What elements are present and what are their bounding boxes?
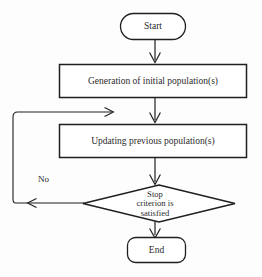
process2-node-shape[interactable] bbox=[60, 125, 247, 158]
flowchart-canvas: Start Generation of initial population(s… bbox=[0, 0, 262, 277]
flowchart-graphics bbox=[0, 0, 262, 277]
start-node-shape[interactable] bbox=[121, 14, 186, 40]
process1-node-shape[interactable] bbox=[60, 65, 247, 98]
decision-node-shape[interactable] bbox=[83, 185, 235, 222]
edge-loopback-no-label: No bbox=[38, 174, 49, 184]
end-node-shape[interactable] bbox=[128, 238, 186, 263]
